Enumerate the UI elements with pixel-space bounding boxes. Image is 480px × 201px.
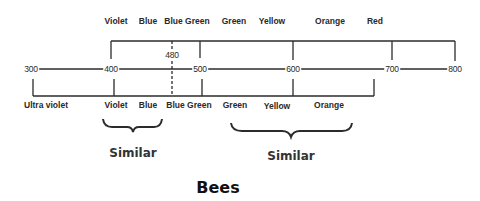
- top-bracket: [111, 41, 455, 61]
- top-label-blue-green: Blue Green: [164, 17, 209, 26]
- brace-left: [103, 119, 162, 132]
- tick-800: 800: [447, 65, 463, 74]
- marker-480-label: 480: [164, 51, 180, 60]
- tick-500: 500: [192, 65, 208, 74]
- bottom-label-violet: Violet: [105, 101, 128, 110]
- top-label-blue: Blue: [139, 17, 157, 26]
- similar-label-right: Similar: [267, 150, 315, 162]
- diagram-title: Bees: [196, 180, 239, 196]
- tick-600: 600: [285, 65, 301, 74]
- top-label-red: Red: [367, 17, 383, 26]
- bottom-label-orange: Orange: [314, 101, 344, 110]
- tick-300: 300: [23, 65, 39, 74]
- tick-700: 700: [384, 65, 400, 74]
- bottom-label-ultra-violet: Ultra violet: [24, 101, 68, 110]
- top-label-yellow: Yellow: [259, 17, 285, 26]
- tick-400: 400: [103, 65, 119, 74]
- bottom-label-green: Green: [223, 101, 248, 110]
- top-label-orange: Orange: [315, 17, 345, 26]
- top-label-green: Green: [222, 17, 247, 26]
- top-label-violet: Violet: [105, 17, 128, 26]
- similar-label-left: Similar: [109, 147, 157, 159]
- bottom-label-blue: Blue: [139, 101, 157, 110]
- bottom-label-blue-green: Blue Green: [166, 101, 211, 110]
- brace-right: [231, 123, 352, 137]
- bottom-label-yellow: Yellow: [264, 102, 290, 111]
- bottom-bracket: [33, 79, 374, 96]
